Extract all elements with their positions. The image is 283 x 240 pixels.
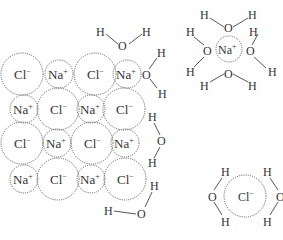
svg-text:Cl−: Cl− xyxy=(117,172,134,187)
svg-text:O: O xyxy=(224,21,233,35)
svg-text:Cl−: Cl− xyxy=(14,67,31,82)
ion-na: Na+ xyxy=(77,95,105,123)
svg-text:H: H xyxy=(186,65,195,79)
ion-na: Na+ xyxy=(77,165,105,193)
svg-text:H: H xyxy=(268,65,277,79)
svg-text:H: H xyxy=(221,215,230,229)
ion-na: Na+ xyxy=(10,95,38,123)
svg-text:H: H xyxy=(248,8,257,22)
svg-text:O: O xyxy=(118,39,127,53)
ion-cl: Cl− xyxy=(71,122,113,164)
svg-text:H: H xyxy=(148,110,157,124)
ion-cl: Cl− xyxy=(74,53,116,95)
svg-text:Cl−: Cl− xyxy=(87,67,104,82)
ion-na: Na+ xyxy=(113,60,141,88)
svg-text:H: H xyxy=(200,8,209,22)
svg-text:O: O xyxy=(224,67,233,81)
svg-text:H: H xyxy=(186,25,195,39)
svg-text:H: H xyxy=(221,165,230,179)
svg-text:O: O xyxy=(208,190,217,204)
water-molecule: H O H xyxy=(142,46,167,101)
nacl-lattice: Cl− Na+ Cl− Na+ Na+ Cl− Na+ Cl− xyxy=(1,53,146,200)
svg-text:O: O xyxy=(203,44,212,58)
ion-na: Na+ xyxy=(43,129,71,157)
svg-text:Cl−: Cl− xyxy=(50,102,67,117)
svg-text:O: O xyxy=(142,68,151,82)
svg-text:H: H xyxy=(200,79,209,93)
svg-text:H: H xyxy=(96,25,105,39)
svg-text:Na+: Na+ xyxy=(116,67,136,82)
svg-text:H: H xyxy=(157,46,166,60)
hydrated-chloride-ion: Cl− H O H H O H xyxy=(208,165,283,229)
svg-text:H: H xyxy=(148,156,157,170)
svg-text:O: O xyxy=(276,190,283,204)
water-molecule: H O H xyxy=(104,179,159,221)
hydrated-sodium-ion: Na+ H O H H O H H O H H O H xyxy=(186,8,277,93)
ion-cl: Cl− xyxy=(103,88,145,130)
nacl-dissolution-diagram: Cl− Na+ Cl− Na+ Na+ Cl− Na+ Cl− xyxy=(0,0,283,240)
ion-cl: Cl− xyxy=(1,122,43,164)
svg-text:H: H xyxy=(248,79,257,93)
svg-text:H: H xyxy=(104,204,113,218)
ion-na: Na+ xyxy=(10,165,38,193)
ion-cl: Cl− xyxy=(37,158,79,200)
ion-cl: Cl− xyxy=(37,88,79,130)
svg-text:Cl−: Cl− xyxy=(238,189,254,204)
svg-text:H: H xyxy=(150,179,159,193)
svg-text:Cl−: Cl− xyxy=(116,102,133,117)
svg-text:O: O xyxy=(157,134,166,148)
svg-text:Na+: Na+ xyxy=(48,67,68,82)
svg-text:Na+: Na+ xyxy=(13,102,33,117)
water-molecule: H O H xyxy=(148,110,166,170)
svg-text:Na+: Na+ xyxy=(13,172,33,187)
svg-text:H: H xyxy=(142,25,151,39)
svg-text:Na+: Na+ xyxy=(80,172,100,187)
ion-na: Na+ xyxy=(111,129,139,157)
water-molecule: H O H xyxy=(96,25,151,53)
svg-text:Na+: Na+ xyxy=(218,42,237,57)
svg-text:O: O xyxy=(246,44,255,58)
svg-text:H: H xyxy=(263,215,272,229)
svg-text:Cl−: Cl− xyxy=(84,136,101,151)
svg-text:O: O xyxy=(137,207,146,221)
svg-text:Cl−: Cl− xyxy=(14,136,31,151)
svg-text:H: H xyxy=(158,87,167,101)
svg-text:Na+: Na+ xyxy=(80,102,100,117)
svg-text:Na+: Na+ xyxy=(114,136,134,151)
ion-cl: Cl− xyxy=(1,53,43,95)
svg-text:Cl−: Cl− xyxy=(50,172,67,187)
svg-text:Na+: Na+ xyxy=(46,136,66,151)
ion-cl: Cl− xyxy=(104,158,146,200)
svg-text:H: H xyxy=(263,165,272,179)
ion-na: Na+ xyxy=(45,60,73,88)
